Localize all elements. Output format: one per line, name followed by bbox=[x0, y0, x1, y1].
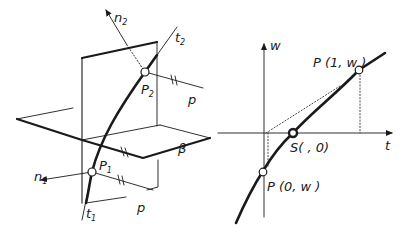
label-t2: t2 bbox=[175, 30, 185, 47]
label-t-axis: t bbox=[385, 138, 391, 153]
vertical-plane-top-edge bbox=[82, 42, 157, 58]
plane-beta-back-edge bbox=[82, 125, 160, 140]
label-beta: β bbox=[177, 141, 186, 156]
label-p-lower: p bbox=[136, 200, 145, 215]
line-p-lower bbox=[92, 172, 153, 190]
secant-dotted bbox=[266, 86, 340, 133]
point-P2-marker bbox=[141, 68, 149, 76]
parallel-tick-p-lower bbox=[118, 175, 124, 185]
right-panel-graph bbox=[218, 44, 392, 223]
shooting-curve bbox=[236, 53, 385, 223]
plane-beta-right-back-edge bbox=[160, 125, 210, 138]
base-segment bbox=[86, 197, 126, 203]
lower-bracket-line bbox=[147, 160, 158, 190]
plane-beta-back-left-edge bbox=[17, 108, 73, 119]
label-w-axis: w bbox=[270, 38, 281, 53]
label-P1: P1 bbox=[99, 158, 112, 175]
tangent-t2-line bbox=[145, 27, 177, 72]
label-S: S( , 0) bbox=[290, 140, 329, 155]
normal-n1-arrow bbox=[41, 172, 92, 180]
label-n2: n2 bbox=[114, 10, 127, 27]
point-P1-marker bbox=[88, 168, 96, 176]
label-P-start: P (0, w ) bbox=[267, 179, 320, 194]
label-p-upper: p bbox=[187, 92, 196, 107]
point-S-marker bbox=[289, 129, 297, 137]
label-n1: n1 bbox=[34, 169, 47, 186]
normal-n2-dotted bbox=[127, 45, 145, 72]
diagram-canvas: n2 t2 P2 p β n1 P1 p t1 w t P (1, w ) S(… bbox=[0, 0, 403, 233]
line-p-upper bbox=[145, 72, 203, 88]
label-P2: P2 bbox=[141, 82, 154, 99]
point-P-start-marker bbox=[259, 168, 267, 176]
label-P-end: P (1, w ) bbox=[313, 55, 366, 70]
label-t1: t1 bbox=[86, 206, 96, 223]
